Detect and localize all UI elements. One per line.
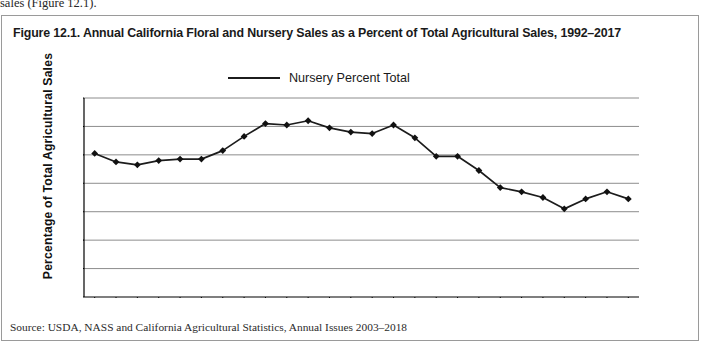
line-chart: 0246810121419921993199419951996199719981… [83, 82, 639, 298]
y-axis-title: Percentage of Total Agricultural Sales [41, 51, 55, 281]
data-point-marker [113, 159, 120, 166]
data-point-marker [582, 196, 589, 203]
data-point-marker [91, 150, 98, 157]
data-point-marker [561, 205, 568, 212]
data-point-marker [369, 130, 376, 137]
data-point-marker [347, 129, 354, 136]
data-point-marker [198, 156, 205, 163]
data-point-marker [155, 157, 162, 164]
series-line-0 [95, 121, 629, 209]
figure-title: Figure 12.1. Annual California Floral an… [13, 26, 621, 40]
data-point-marker [305, 117, 312, 124]
data-point-marker [540, 194, 547, 201]
preceding-body-text: sales (Figure 12.1). [0, 0, 702, 12]
figure-source-note: Source: USDA, NASS and California Agricu… [10, 321, 407, 333]
data-point-marker [326, 124, 333, 131]
data-point-marker [518, 188, 525, 195]
legend-line-swatch [228, 77, 280, 79]
data-point-marker [283, 122, 290, 129]
figure-container: Figure 12.1. Annual California Floral an… [1, 15, 699, 341]
data-point-marker [625, 196, 632, 203]
data-point-marker [134, 161, 141, 168]
chart-plot-area: 0246810121419921993199419951996199719981… [83, 82, 639, 298]
data-point-marker [177, 156, 184, 163]
data-point-marker [604, 188, 611, 195]
